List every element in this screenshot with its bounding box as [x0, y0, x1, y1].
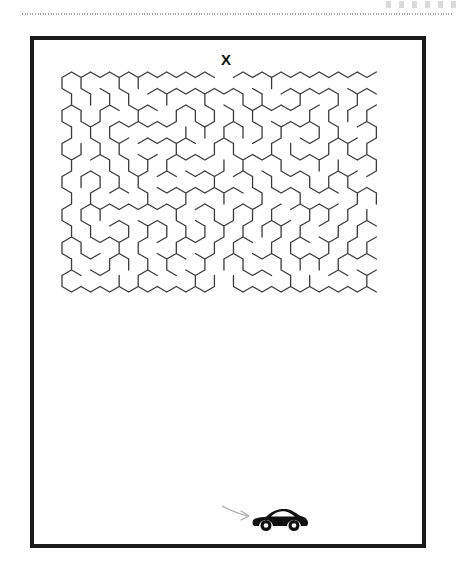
puzzle-page: X: [0, 0, 470, 575]
puzzle-frame: [30, 36, 426, 548]
scan-artifact: [386, 1, 456, 8]
header-dotted-rule: [22, 13, 454, 15]
sports-car-icon: [251, 506, 309, 532]
entrance-x-marker: X: [216, 50, 236, 70]
